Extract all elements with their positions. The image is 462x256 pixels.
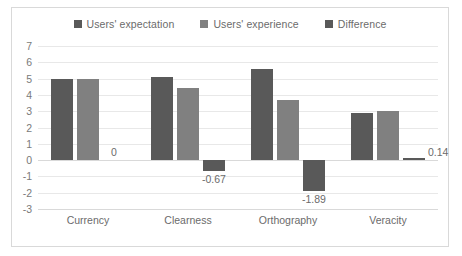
bar <box>303 160 325 191</box>
bar <box>351 113 373 160</box>
legend-item-users-expectation: Users' expectation <box>74 18 175 30</box>
bar-group: -0.67 <box>138 46 238 209</box>
y-tick-label: 2 <box>26 122 32 134</box>
y-tick-label: 5 <box>26 73 32 85</box>
y-tick-label: -2 <box>23 187 32 199</box>
legend-swatch-icon <box>200 20 208 28</box>
legend-swatch-icon <box>325 20 333 28</box>
bar-data-label: -1.89 <box>302 193 326 205</box>
y-tick-label: 7 <box>26 40 32 52</box>
y-tick-label: 6 <box>26 56 32 68</box>
y-tick-label: 0 <box>26 154 32 166</box>
chart-legend: Users' expectation Users' experience Dif… <box>12 18 448 30</box>
legend-item-users-experience: Users' experience <box>200 18 298 30</box>
category-label: Veracity <box>369 214 406 226</box>
bar-data-label: 0.14 <box>428 146 448 158</box>
legend-swatch-icon <box>74 20 82 28</box>
bar-groups: 0-0.67-1.890.14 <box>38 46 438 209</box>
bar-data-label: -0.67 <box>202 173 226 185</box>
bar <box>177 88 199 160</box>
bar <box>203 160 225 171</box>
bar-group: -1.89 <box>238 46 338 209</box>
category-axis-labels: CurrencyClearnessOrthographyVeracity <box>38 214 438 234</box>
chart-container: Users' expectation Users' experience Dif… <box>11 7 449 247</box>
y-tick-label: -3 <box>23 203 32 215</box>
bar <box>77 79 99 161</box>
category-axis-line <box>38 209 438 210</box>
legend-label: Users' experience <box>213 18 298 30</box>
plot-area: 0-0.67-1.890.14 <box>38 46 438 209</box>
bar <box>377 111 399 161</box>
bar <box>251 69 273 160</box>
bar-data-label: 0 <box>111 146 117 158</box>
bar <box>277 100 299 160</box>
y-tick-label: 1 <box>26 138 32 150</box>
bar-group: 0.14 <box>338 46 438 209</box>
bar <box>51 79 73 161</box>
y-axis-tick-labels: 76543210-1-2-3 <box>12 46 36 209</box>
y-tick-label: 3 <box>26 105 32 117</box>
legend-label: Users' expectation <box>87 18 175 30</box>
category-label: Orthography <box>259 214 317 226</box>
legend-item-difference: Difference <box>325 18 387 30</box>
y-tick-label: -1 <box>23 170 32 182</box>
bar <box>403 158 425 160</box>
legend-label: Difference <box>338 18 387 30</box>
bar-group: 0 <box>38 46 138 209</box>
y-tick-label: 4 <box>26 89 32 101</box>
bar <box>151 77 173 160</box>
category-label: Currency <box>67 214 110 226</box>
category-label: Clearness <box>164 214 211 226</box>
